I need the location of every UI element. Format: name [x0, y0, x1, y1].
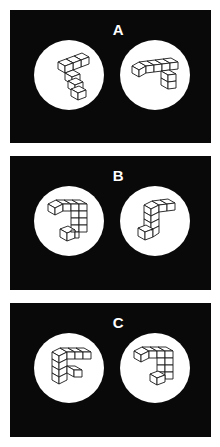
cube-figure-c-right [120, 333, 190, 403]
cube-figure-b-left [34, 186, 104, 256]
stimulus-disc-c-left [34, 333, 104, 403]
panel-a: A [10, 10, 211, 143]
cube-figure-b-right [120, 186, 190, 256]
panel-c: C [10, 303, 211, 437]
cube-figure-a-left [34, 40, 104, 110]
stimulus-disc-b-right [120, 186, 190, 256]
stimulus-disc-a-right [120, 40, 190, 110]
mental-rotation-figure-sheet: A [0, 0, 220, 447]
panel-label-c: C [26, 315, 211, 330]
panel-label-a: A [26, 22, 211, 37]
stimulus-disc-b-left [34, 186, 104, 256]
cube-figure-c-left [34, 333, 104, 403]
stimulus-disc-a-left [34, 40, 104, 110]
panel-b: B [10, 156, 211, 290]
stimulus-disc-c-right [120, 333, 190, 403]
panel-label-b: B [26, 168, 211, 183]
cube-figure-a-right [120, 40, 190, 110]
